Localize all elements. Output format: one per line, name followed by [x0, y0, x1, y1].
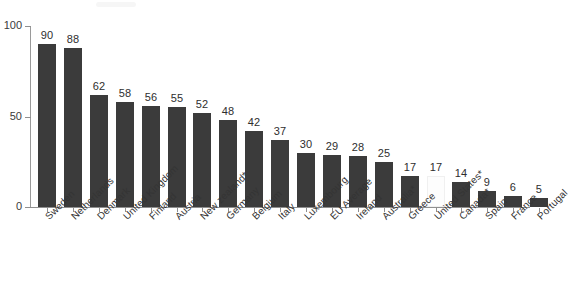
bar-value-label: 88 [58, 33, 88, 45]
y-axis-tick [25, 26, 31, 27]
y-axis-tick-label: 100 [0, 19, 22, 31]
scan-artifact [96, 2, 136, 7]
bar [64, 48, 82, 207]
bar-value-label: 25 [369, 147, 399, 159]
y-axis-tick-label: 50 [0, 110, 22, 122]
y-axis-tick-label: 0 [0, 200, 22, 212]
bar-value-label: 37 [265, 125, 295, 137]
bar [297, 153, 315, 207]
y-axis-tick [25, 117, 31, 118]
bar [38, 44, 56, 207]
